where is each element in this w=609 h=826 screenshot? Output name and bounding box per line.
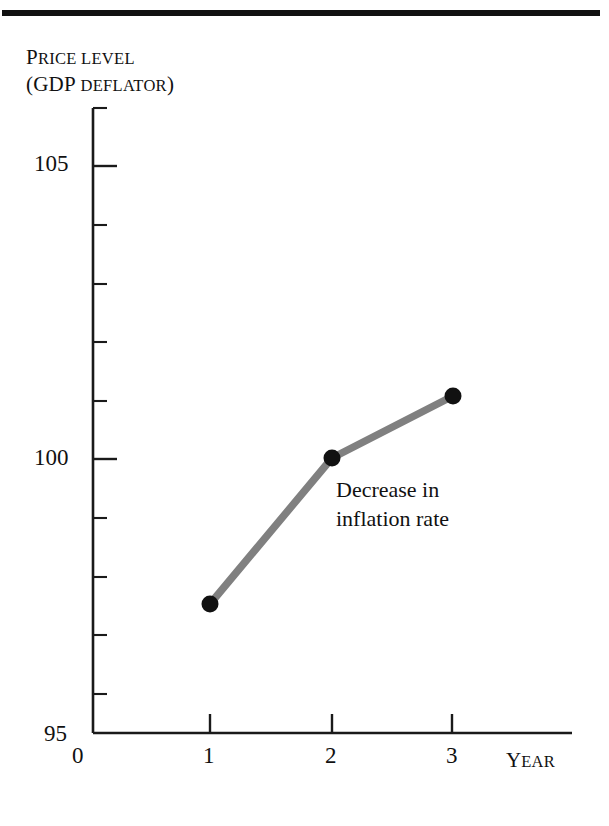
chart-annotation: Decrease in inflation rate (336, 475, 449, 534)
y-tick-label-100: 100 (34, 446, 69, 469)
x-axis-title-minor: EAR (521, 752, 555, 771)
x-tick-label-1: 1 (203, 744, 215, 767)
chart-annotation-line-1: Decrease in (336, 475, 449, 504)
x-axis-title: YEAR (506, 748, 555, 773)
x-axis-title-major: Y (506, 748, 521, 772)
x-tick-label-0: 0 (72, 744, 84, 767)
y-tick-label-95: 95 (44, 722, 67, 745)
chart-annotation-line-2: inflation rate (336, 504, 449, 533)
y-tick-label-105: 105 (34, 152, 69, 175)
x-tick-label-3: 3 (446, 744, 458, 767)
x-axis-ticks (210, 714, 452, 733)
x-tick-label-2: 2 (325, 744, 337, 767)
data-point-marker (202, 596, 219, 613)
data-point-marker (324, 450, 341, 467)
y-axis-major-ticks (93, 166, 117, 459)
chart-plot-area (0, 0, 609, 826)
figure-canvas: PRICE LEVEL (GDP DEFLATOR) (0, 0, 609, 826)
data-point-marker (445, 388, 462, 405)
y-axis-minor-ticks (93, 108, 107, 694)
